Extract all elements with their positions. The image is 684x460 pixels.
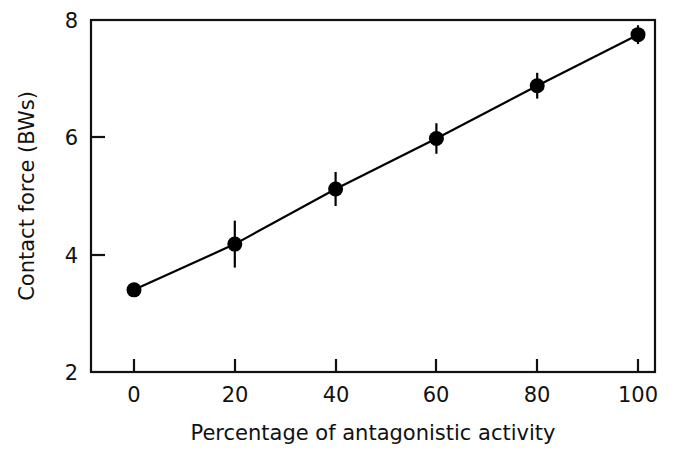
x-tick-label-40: 40 — [323, 383, 350, 407]
x-tick-label-100: 100 — [618, 383, 658, 407]
x-tick-label-60: 60 — [423, 383, 450, 407]
plot-frame — [91, 20, 655, 372]
data-point-marker — [227, 237, 242, 252]
data-point-marker — [127, 282, 142, 297]
x-tick-label-0: 0 — [127, 383, 140, 407]
data-point-marker — [631, 27, 646, 42]
x-axis-title: Percentage of antagonistic activity — [191, 421, 556, 445]
contact-force-line-chart: 8 6 4 2 0 20 40 60 80 100 Percentage of … — [0, 0, 684, 460]
y-tick-label-6: 6 — [65, 126, 78, 150]
data-point-marker — [429, 131, 444, 146]
y-tick-label-8: 8 — [65, 9, 78, 33]
y-tick-label-4: 4 — [65, 244, 78, 268]
chart-figure: 8 6 4 2 0 20 40 60 80 100 Percentage of … — [0, 0, 684, 460]
y-tick-label-2: 2 — [65, 361, 78, 385]
data-point-marker — [328, 181, 343, 196]
data-point-marker — [530, 78, 545, 93]
x-tick-label-20: 20 — [222, 383, 249, 407]
x-tick-label-80: 80 — [524, 383, 551, 407]
y-axis-title: Contact force (BWs) — [15, 91, 39, 301]
